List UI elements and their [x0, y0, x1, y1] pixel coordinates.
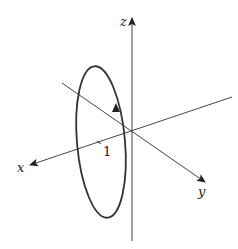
- x-axis-label: x: [17, 160, 25, 175]
- z-axis-label: z: [119, 14, 127, 29]
- y-axis: [62, 83, 205, 182]
- tick-label-1: 1: [103, 144, 111, 159]
- diagram-figure: z x y 1: [0, 0, 238, 249]
- y-axis-label: y: [197, 184, 206, 199]
- x-axis: [30, 97, 232, 165]
- circle-curve: [70, 64, 131, 220]
